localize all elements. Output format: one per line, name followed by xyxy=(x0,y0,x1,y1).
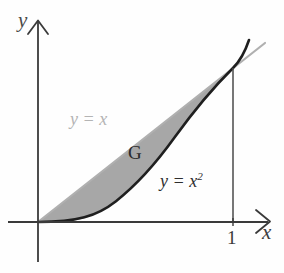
curve-label-parabola-exponent: 2 xyxy=(197,170,203,182)
curve-parabola-y-equals-x-squared xyxy=(38,40,249,222)
x-tick-label-1: 1 xyxy=(227,228,237,247)
x-axis-label: x xyxy=(262,222,271,243)
region-label-g: G xyxy=(128,143,142,162)
curve-label-parabola: y = x2 xyxy=(160,172,203,190)
curve-label-line: y = x xyxy=(70,110,107,128)
curve-label-line-text: y = x xyxy=(70,109,107,129)
y-axis-label: y xyxy=(18,10,27,31)
math-figure-region-g: y x 1 y = x y = x2 G xyxy=(0,0,284,273)
curve-label-parabola-text: y = x xyxy=(160,171,197,191)
diagram-canvas xyxy=(0,0,284,273)
